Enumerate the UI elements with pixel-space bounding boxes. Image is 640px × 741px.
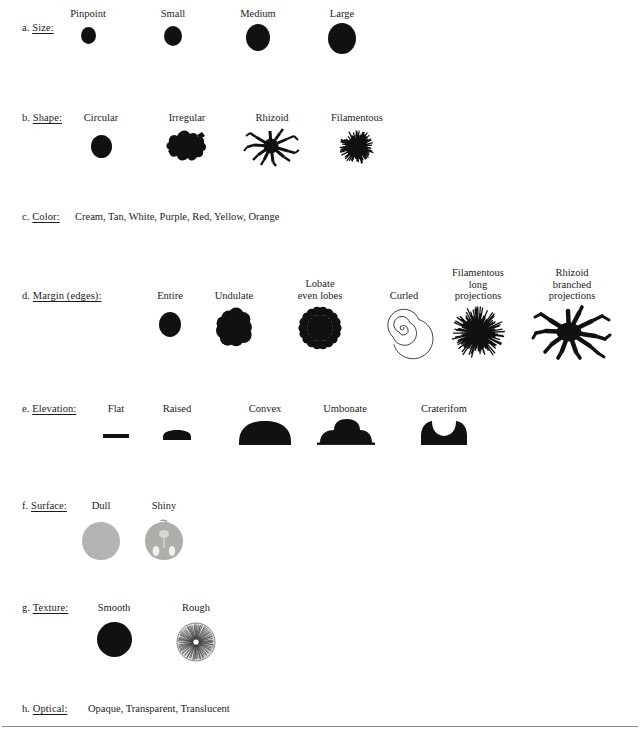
section-letter: e. <box>22 403 30 414</box>
section-title: Color: <box>32 211 59 222</box>
surface-dull-icon <box>75 520 127 562</box>
item-margin-filamentous-long: Filamentous long projections <box>447 267 509 361</box>
section-title: Elevation: <box>32 403 76 414</box>
section-label-surface: f. Surface: <box>22 500 67 511</box>
item-label: Raised <box>150 403 204 415</box>
item-texture-rough: Rough <box>169 602 223 662</box>
item-margin-undulate: Undulate <box>204 290 264 349</box>
section-label-shape: b. Shape: <box>22 112 62 123</box>
item-label: Rhizoid <box>242 112 302 124</box>
item-label: Filamentous <box>327 112 387 124</box>
item-shape-filamentous: Filamentous <box>327 112 387 166</box>
item-label: Small <box>143 8 203 20</box>
colony-circle-icon <box>312 23 372 54</box>
item-label: Large <box>312 8 372 20</box>
elevation-crateriform-icon <box>416 420 472 446</box>
item-texture-smooth: Smooth <box>87 602 141 657</box>
margin-entire-icon <box>143 312 197 337</box>
section-letter: c. <box>22 211 30 222</box>
margin-curled-icon <box>376 307 432 347</box>
margin-rhizoid-branched-icon <box>539 306 605 360</box>
section-label-color: c. Color: <box>22 211 60 222</box>
item-label: Irregular <box>157 112 217 124</box>
colony-circular-icon <box>71 135 131 158</box>
elevation-raised-icon <box>150 429 204 441</box>
item-label: Medium <box>228 8 288 20</box>
texture-rough-icon <box>169 622 223 662</box>
section-label-margin: d. Margin (edges): <box>22 290 101 301</box>
texture-smooth-icon <box>87 622 141 657</box>
section-letter: f. <box>22 500 28 511</box>
item-label: Shiny <box>138 500 190 512</box>
item-elevation-convex: Convex <box>237 403 293 446</box>
section-letter: b. <box>22 112 30 123</box>
item-label: Umbonate <box>316 403 374 415</box>
surface-shiny-icon <box>138 518 190 562</box>
margin-filamentous-long-icon <box>447 305 509 361</box>
section-title: Optical: <box>33 703 68 714</box>
item-surface-shiny: Shiny <box>138 500 190 562</box>
item-label: Entire <box>143 290 197 302</box>
optical-values-list: Opaque, Transparent, Translucent <box>88 703 230 714</box>
item-label: Filamentous long projections <box>447 267 509 302</box>
item-shape-irregular: Irregular <box>157 112 217 165</box>
item-size-pinpoint: Pinpoint <box>58 8 118 44</box>
item-shape-rhizoid: Rhizoid <box>242 112 302 167</box>
section-label-texture: g. Texture: <box>22 602 68 613</box>
colony-filamentous-icon <box>327 128 387 166</box>
item-margin-entire: Entire <box>143 290 197 337</box>
margin-undulate-icon <box>204 305 264 349</box>
section-title: Texture: <box>33 602 69 613</box>
section-title: Shape: <box>33 112 62 123</box>
item-margin-lobate: Lobate even lobes <box>288 278 352 351</box>
item-label: Lobate even lobes <box>288 278 352 301</box>
section-letter: g. <box>22 602 30 613</box>
item-elevation-flat: Flat <box>90 403 142 438</box>
item-label: Rhizoid branched projections <box>539 267 605 302</box>
section-title: Size: <box>32 22 54 33</box>
item-label: Craterifom <box>416 403 472 415</box>
section-label-elevation: e. Elevation: <box>22 403 76 414</box>
section-title: Surface: <box>31 500 67 511</box>
section-label-optical: h. Optical: <box>22 703 67 714</box>
section-letter: d. <box>22 290 30 301</box>
section-label-size: a. Size: <box>22 22 54 33</box>
colony-circle-icon <box>228 24 288 51</box>
item-size-large: Large <box>312 8 372 54</box>
colony-circle-icon <box>143 26 203 46</box>
item-label: Smooth <box>87 602 141 614</box>
item-elevation-crateriform: Craterifom <box>416 403 472 446</box>
item-label: Dull <box>75 500 127 512</box>
elevation-flat-icon <box>90 434 142 438</box>
item-label: Curled <box>376 290 432 302</box>
item-elevation-raised: Raised <box>150 403 204 441</box>
item-shape-circular: Circular <box>71 112 131 158</box>
colony-circle-icon <box>58 27 118 44</box>
section-letter: h. <box>22 703 30 714</box>
item-surface-dull: Dull <box>75 500 127 562</box>
item-margin-curled: Curled <box>376 290 432 347</box>
item-label: Convex <box>237 403 293 415</box>
item-label: Pinpoint <box>58 8 118 20</box>
footer-divider <box>2 726 638 727</box>
color-values-list: Cream, Tan, White, Purple, Red, Yellow, … <box>75 211 279 222</box>
item-margin-rhizoid-branched: Rhizoid branched projections <box>539 267 605 360</box>
item-size-small: Small <box>143 8 203 46</box>
section-letter: a. <box>22 22 30 33</box>
elevation-umbonate-icon <box>316 419 374 446</box>
figure-page: a. Size: Pinpoint Small Medium Large <box>0 0 640 741</box>
section-title: Margin (edges): <box>33 290 102 301</box>
margin-lobate-icon <box>288 305 352 351</box>
item-size-medium: Medium <box>228 8 288 51</box>
item-label: Undulate <box>204 290 264 302</box>
item-label: Rough <box>169 602 223 614</box>
item-label: Flat <box>90 403 142 415</box>
colony-rhizoid-icon <box>242 127 302 167</box>
colony-irregular-icon <box>157 129 217 165</box>
item-label: Circular <box>71 112 131 124</box>
item-elevation-umbonate: Umbonate <box>316 403 374 446</box>
elevation-convex-icon <box>237 420 293 446</box>
